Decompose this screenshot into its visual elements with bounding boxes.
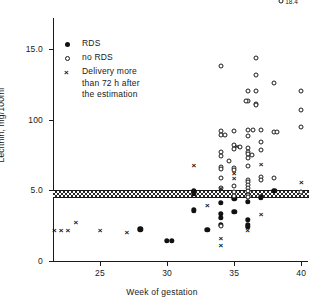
data-point-delivery-delayed (233, 142, 240, 149)
data-point-delivery-delayed (204, 202, 211, 209)
data-point-delivery-delayed (190, 161, 197, 168)
data-point-no-rds (245, 89, 250, 94)
data-point-no-rds (222, 133, 227, 138)
data-point-no-rds (218, 64, 223, 69)
point-value-label: 18.4 (285, 0, 298, 5)
y-tick-label: 100 (28, 115, 43, 125)
data-point-no-rds (232, 129, 237, 134)
data-point-delivery-delayed (231, 174, 238, 181)
y-tick: 15.0 (49, 49, 54, 50)
data-point-delivery-delayed (258, 210, 265, 217)
data-point-no-rds (253, 72, 258, 77)
data-point-no-rds (253, 88, 258, 93)
data-point-delivery-delayed (298, 178, 305, 185)
data-point-no-rds (272, 80, 277, 85)
data-point-rds (205, 227, 210, 232)
data-point-delivery-delayed (217, 241, 224, 248)
reference-band (53, 190, 309, 198)
x-tick-label: 30 (162, 268, 172, 278)
legend-label: no RDS (82, 52, 194, 64)
x-tick: 30 (167, 261, 168, 266)
data-point-no-rds (249, 153, 254, 158)
data-point-delivery-delayed (96, 226, 103, 233)
y-tick: 0 (49, 261, 54, 262)
data-point-rds (218, 215, 223, 220)
legend-open-circle-icon (65, 56, 70, 61)
x-axis-title: Week of gestation (0, 287, 324, 297)
data-point-no-rds (218, 167, 223, 172)
data-point-rds (169, 238, 174, 243)
legend: RDSno RDS×Delivery morethan 72 h afterth… (64, 38, 194, 102)
data-point-no-rds (232, 184, 237, 189)
x-tick: 40 (301, 261, 302, 266)
y-tick-label: 0 (38, 256, 43, 266)
data-point-no-rds (259, 148, 264, 153)
x-axis-line (53, 261, 308, 262)
x-tick: 35 (234, 261, 235, 266)
data-point-no-rds (299, 107, 304, 112)
legend-item: no RDS (64, 52, 194, 65)
data-point-delivery-delayed (137, 226, 144, 233)
data-point-delivery-delayed (217, 185, 224, 192)
data-point-no-rds (218, 175, 223, 180)
data-point-no-rds (253, 56, 258, 61)
data-point-rds (191, 207, 196, 212)
data-point-no-rds (245, 195, 250, 200)
data-point-no-rds (245, 164, 250, 169)
data-point-delivery-delayed (64, 226, 71, 233)
y-tick-label: 15.0 (26, 44, 43, 54)
lecithin-gestation-scatter-figure: 05.010015.0 25303540 23.422.018.4 RDSno … (0, 0, 324, 308)
data-point-no-rds (279, 0, 284, 4)
x-tick-label: 25 (95, 268, 105, 278)
y-axis-title: Lecithin, mg/100ml (0, 40, 6, 210)
legend-label-line3: the estimation (82, 89, 194, 101)
data-point-no-rds (232, 194, 237, 199)
y-tick: 100 (49, 120, 54, 121)
data-point-no-rds (259, 139, 264, 144)
x-tick-label: 40 (296, 268, 306, 278)
data-point-delivery-delayed (123, 229, 130, 236)
legend-label: Delivery more (82, 66, 194, 78)
data-point-no-rds (245, 127, 250, 132)
data-point-no-rds (218, 224, 223, 229)
x-tick: 25 (100, 261, 101, 266)
data-point-rds (258, 195, 263, 200)
legend-filled-circle-icon (65, 42, 70, 47)
data-point-no-rds (272, 176, 277, 181)
data-point-rds (231, 209, 236, 214)
data-point-no-rds (250, 128, 255, 133)
data-point-delivery-delayed (72, 219, 79, 226)
legend-label-line2: than 72 h after (82, 78, 194, 90)
y-tick-label: 5.0 (31, 185, 43, 195)
legend-cross-icon: × (64, 69, 72, 77)
data-point-no-rds (226, 158, 231, 163)
data-point-no-rds (299, 88, 304, 93)
data-point-rds (218, 200, 223, 205)
data-point-no-rds (299, 125, 304, 130)
data-point-no-rds (245, 133, 250, 138)
data-point-no-rds (259, 128, 264, 133)
legend-item: ×Delivery morethan 72 h afterthe estimat… (64, 66, 194, 101)
legend-label: RDS (82, 38, 194, 50)
data-point-no-rds (218, 154, 223, 159)
data-point-no-rds (244, 98, 249, 103)
legend-item: RDS (64, 38, 194, 51)
data-point-no-rds (259, 177, 264, 182)
data-point-no-rds (275, 129, 280, 134)
x-tick-label: 35 (229, 268, 239, 278)
data-point-delivery-delayed (244, 226, 251, 233)
data-point-no-rds (299, 190, 304, 195)
data-point-no-rds (253, 102, 258, 107)
data-point-delivery-delayed (258, 161, 265, 168)
